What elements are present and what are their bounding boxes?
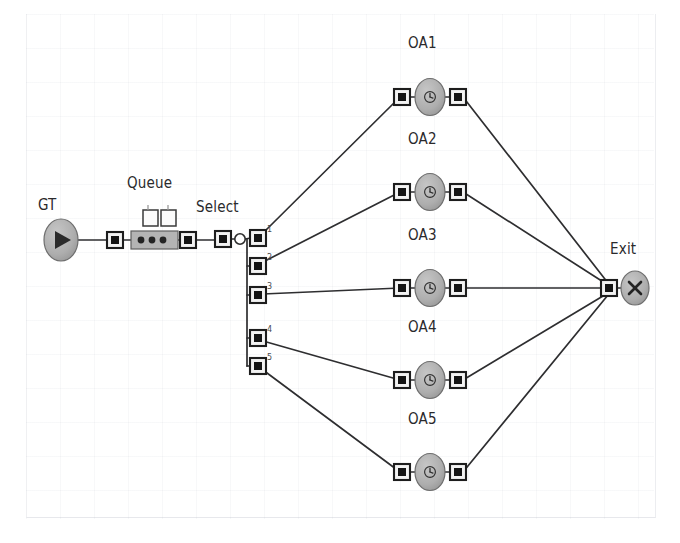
label-oa4: OA4: [408, 318, 437, 336]
link-select1-to-oa1: [263, 97, 400, 233]
queue-slot-1: [143, 210, 158, 226]
link-oa2-to-exit: [463, 192, 608, 285]
label-oa2: OA2: [408, 130, 437, 148]
select-branch-number-1: 1: [267, 225, 272, 234]
node-gt[interactable]: [44, 219, 78, 261]
label-gt: GT: [38, 196, 57, 214]
link-select5-to-oa5: [263, 370, 400, 472]
port-oa3-out[interactable]: [450, 280, 466, 296]
port-oa4-out[interactable]: [450, 372, 466, 388]
port-select-branch-2[interactable]: [250, 258, 266, 274]
port-oa4-in[interactable]: [394, 372, 410, 388]
label-oa1: OA1: [408, 34, 437, 52]
node-select[interactable]: [235, 234, 245, 244]
port-exit-in[interactable]: [601, 280, 617, 296]
port-oa5-in[interactable]: [394, 464, 410, 480]
link-oa5-to-exit: [463, 295, 608, 472]
queue-dot-2: [149, 237, 156, 244]
port-oa2-out[interactable]: [450, 184, 466, 200]
node-oa2[interactable]: [415, 174, 445, 211]
node-oa1[interactable]: [415, 79, 445, 116]
port-select-branch-3[interactable]: [250, 287, 266, 303]
port-oa3-in[interactable]: [394, 280, 410, 296]
port-select-branch-1[interactable]: [250, 230, 266, 246]
select-branch-number-4: 4: [267, 325, 272, 334]
port-oa5-out[interactable]: [450, 464, 466, 480]
select-hollow-circle: [235, 234, 245, 244]
link-select3-to-oa3: [263, 288, 400, 294]
queue-slot-2: [161, 210, 176, 226]
port-select-branch-5[interactable]: [250, 358, 266, 374]
select-branch-number-5: 5: [267, 353, 272, 362]
node-oa3[interactable]: [415, 270, 445, 307]
node-queue[interactable]: [131, 205, 178, 249]
port-queue-in[interactable]: [180, 232, 196, 248]
link-oa4-to-exit: [463, 293, 608, 380]
node-oa5[interactable]: [415, 454, 445, 491]
connection-links: [78, 97, 621, 472]
link-select4-to-oa4: [263, 341, 400, 380]
port-gt-out[interactable]: [107, 232, 123, 248]
select-branch-number-2: 2: [267, 253, 272, 262]
select-branch-number-3: 3: [267, 282, 272, 291]
queue-dot-3: [160, 237, 167, 244]
port-select-branch-4[interactable]: [250, 330, 266, 346]
port-oa1-out[interactable]: [450, 89, 466, 105]
node-exit[interactable]: [621, 271, 649, 305]
label-exit: Exit: [610, 240, 636, 258]
queue-dot-1: [138, 237, 145, 244]
port-queue-out[interactable]: [215, 231, 231, 247]
label-queue: Queue: [127, 174, 172, 192]
flow-graph: [0, 0, 680, 543]
label-oa3: OA3: [408, 226, 437, 244]
link-select2-to-oa2: [263, 192, 400, 262]
link-oa1-to-exit: [463, 97, 608, 283]
label-oa5: OA5: [408, 410, 437, 428]
port-oa2-in[interactable]: [394, 184, 410, 200]
node-oa4[interactable]: [415, 362, 445, 399]
label-select: Select: [196, 198, 239, 216]
diagram-canvas: GT Queue Select Exit OA1 OA2 OA3 OA4 OA5…: [0, 0, 680, 543]
port-oa1-in[interactable]: [394, 89, 410, 105]
